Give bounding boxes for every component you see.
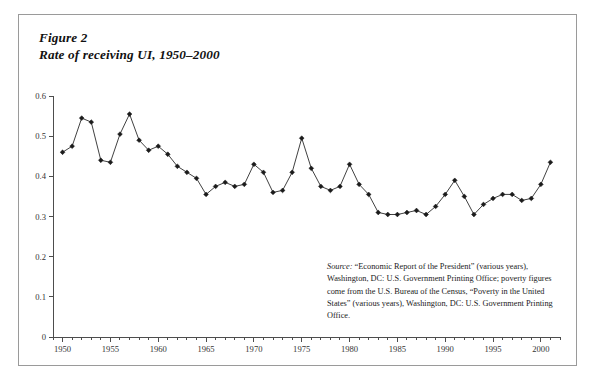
x-tick-label: 1970 xyxy=(245,344,262,354)
data-point xyxy=(548,160,553,165)
y-tick-label: 0.4 xyxy=(35,171,46,181)
data-point xyxy=(318,184,323,189)
data-point xyxy=(299,136,304,141)
data-point xyxy=(328,188,333,193)
x-tick-label: 1995 xyxy=(484,344,501,354)
data-point xyxy=(385,212,390,217)
data-point xyxy=(280,188,285,193)
data-point xyxy=(70,144,75,149)
data-point xyxy=(271,190,276,195)
data-point xyxy=(98,158,103,163)
source-label: Source: xyxy=(327,262,353,271)
y-axis: 00.10.20.30.40.50.6 xyxy=(35,91,53,342)
x-tick-label: 1985 xyxy=(389,344,406,354)
x-tick-label: 1975 xyxy=(293,344,310,354)
data-point xyxy=(347,162,352,167)
x-tick-label: 1990 xyxy=(437,344,454,354)
data-point xyxy=(185,170,190,175)
data-point xyxy=(118,132,123,137)
data-point xyxy=(223,180,228,185)
y-tick-label: 0.1 xyxy=(35,292,46,302)
x-tick-label: 1960 xyxy=(150,344,167,354)
x-tick-label: 1955 xyxy=(102,344,119,354)
x-tick-label: 1950 xyxy=(54,344,71,354)
y-tick-label: 0.2 xyxy=(35,252,46,262)
data-point xyxy=(376,210,381,215)
x-tick-label: 1965 xyxy=(197,344,214,354)
data-point xyxy=(500,192,505,197)
x-tick-label: 2000 xyxy=(532,344,549,354)
x-tick-label: 1980 xyxy=(341,344,358,354)
series-line-ui-rate xyxy=(63,114,551,214)
data-point xyxy=(79,116,84,121)
source-text: “Economic Report of the President” (vari… xyxy=(327,262,553,320)
data-point xyxy=(405,210,410,215)
x-axis: 1950195519601965197019751980198519901995… xyxy=(53,337,560,354)
y-tick-label: 0 xyxy=(42,332,46,342)
data-point xyxy=(108,160,113,165)
data-point xyxy=(232,184,237,189)
y-tick-label: 0.6 xyxy=(35,91,46,101)
data-point xyxy=(127,112,132,117)
y-tick-label: 0.5 xyxy=(35,131,46,141)
data-point xyxy=(309,166,314,171)
data-point xyxy=(290,170,295,175)
data-point xyxy=(242,182,247,187)
data-point xyxy=(462,194,467,199)
data-point xyxy=(395,212,400,217)
source-note: Source: “Economic Report of the Presiden… xyxy=(327,261,560,322)
data-point xyxy=(338,184,343,189)
data-point xyxy=(89,120,94,125)
data-point xyxy=(510,192,515,197)
data-point xyxy=(491,196,496,201)
figure-frame: Figure 2 Rate of receiving UI, 1950–2000… xyxy=(18,14,577,366)
y-tick-label: 0.3 xyxy=(35,212,46,222)
data-point xyxy=(519,198,524,203)
data-point xyxy=(414,208,419,213)
data-point xyxy=(194,176,199,181)
data-point xyxy=(60,150,65,155)
